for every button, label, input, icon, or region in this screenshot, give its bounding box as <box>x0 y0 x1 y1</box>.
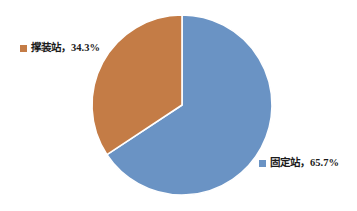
legend-swatch-skid-station <box>20 45 27 52</box>
data-label-skid-station-text: 撑装站，34.3% <box>31 43 100 54</box>
pie-chart-canvas <box>0 0 357 211</box>
legend-swatch-fixed-station <box>259 160 266 167</box>
data-label-fixed-station: 固定站，65.7% <box>259 158 339 169</box>
pie-chart-figure: 撑装站，34.3% 固定站，65.7% <box>0 0 357 211</box>
data-label-fixed-station-text: 固定站，65.7% <box>270 158 339 169</box>
data-label-skid-station: 撑装站，34.3% <box>20 43 100 54</box>
